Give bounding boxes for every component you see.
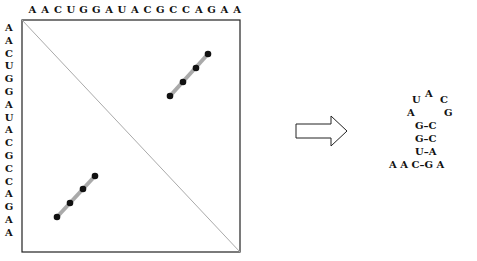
- loop-nt: C: [440, 94, 448, 105]
- loop-nt: G: [444, 107, 453, 118]
- right-arrow-icon: [296, 116, 347, 146]
- lower-stem-diagonal: [54, 173, 99, 221]
- loop-nt: A: [425, 88, 433, 99]
- upper-stem-diagonal: [167, 51, 212, 100]
- base-pair: U–A: [415, 146, 436, 157]
- stem-base: A A C–G A: [389, 159, 444, 170]
- loop-nt: U: [412, 94, 421, 105]
- base-pair: G–C: [415, 120, 437, 131]
- loop-nt: A: [407, 107, 415, 118]
- base-pair: G–C: [415, 133, 437, 144]
- dotplot-canvas: [0, 0, 477, 261]
